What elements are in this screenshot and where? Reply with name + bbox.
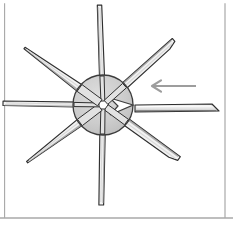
blade-north-root	[100, 76, 105, 101]
impeller-illustration	[0, 0, 233, 226]
detached-blade	[135, 104, 219, 112]
blade-south-root	[100, 109, 105, 134]
figure-container: Impeller blade insertion diagram Explode…	[0, 0, 233, 226]
